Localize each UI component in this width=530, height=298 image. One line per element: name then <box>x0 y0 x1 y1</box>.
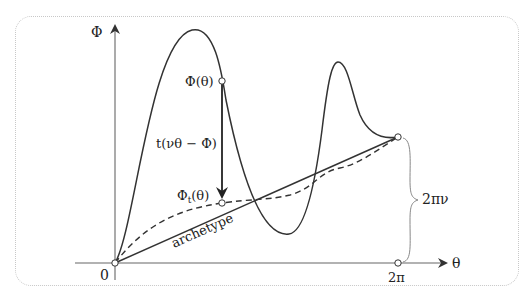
phi-t-theta-label: Φt(θ) <box>177 188 209 205</box>
y-axis-label: Φ <box>91 24 102 40</box>
correction-label: t(νθ − Φ) <box>156 136 217 151</box>
origin-point <box>112 260 118 266</box>
phi-theta-label: Φ(θ) <box>185 74 214 89</box>
end-point <box>395 134 401 140</box>
origin-label: 0 <box>100 267 109 283</box>
diagram-canvas: Φ θ 0 2π Φ(θ) t(νθ − Φ) Φt(θ) archetype … <box>0 0 530 298</box>
brace-label: 2πν <box>422 191 449 207</box>
two-pi-label: 2π <box>388 270 405 285</box>
x-axis-label: θ <box>452 255 460 271</box>
phi-t-theta-point <box>219 200 225 206</box>
phi-theta-point <box>219 78 225 84</box>
brace-2pi-nu <box>403 138 418 262</box>
archetype-label: archetype <box>169 210 236 251</box>
two-pi-point <box>395 260 401 266</box>
